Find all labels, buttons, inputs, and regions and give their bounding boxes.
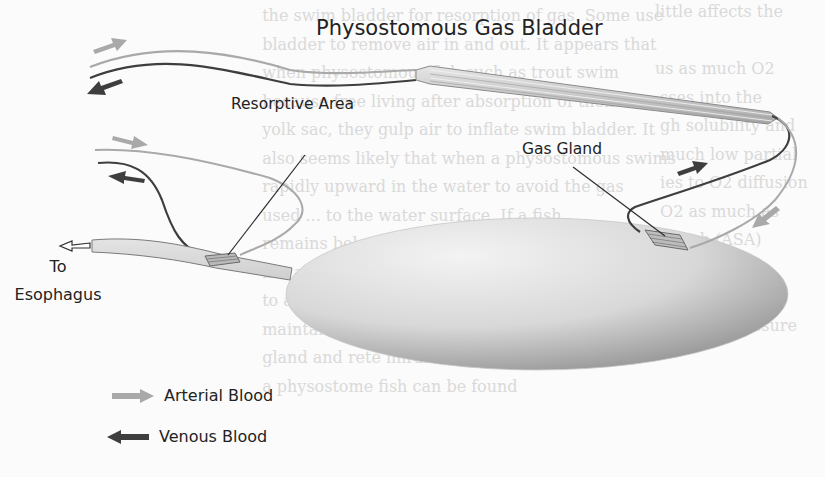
to-esophagus-arrow-icon bbox=[60, 241, 90, 251]
arterial-arrow-icon-mid-left bbox=[112, 136, 148, 149]
to-esophagus-label-line1: To bbox=[10, 253, 106, 281]
venous-vessel-top bbox=[90, 64, 416, 86]
legend-label-arterial: Arterial Blood bbox=[164, 386, 273, 405]
venous-arrow-icon-top-left bbox=[87, 79, 123, 95]
figure-title: Physostomous Gas Bladder bbox=[316, 16, 603, 40]
rete-mirabile-bundle bbox=[416, 66, 778, 124]
legend-label-venous: Venous Blood bbox=[159, 427, 267, 446]
legend-item-arterial: Arterial Blood bbox=[112, 386, 273, 405]
legend-item-venous: Venous Blood bbox=[107, 427, 267, 446]
swim-bladder-body bbox=[286, 218, 788, 370]
venous-arrow-icon-right bbox=[677, 161, 708, 176]
to-esophagus-label-line2: Esophagus bbox=[10, 281, 106, 309]
to-esophagus-label: To Esophagus bbox=[10, 253, 106, 309]
arrow-left-icon bbox=[107, 430, 149, 444]
venous-arrow-icon-mid-left bbox=[108, 171, 145, 184]
arterial-vessel-top bbox=[90, 51, 416, 73]
diagram-page: little affects the us as much O2 sses in… bbox=[0, 0, 825, 477]
arrow-right-icon bbox=[112, 389, 154, 403]
arterial-arrow-icon-top-left bbox=[93, 38, 127, 54]
gas-bladder-diagram bbox=[0, 0, 825, 477]
resorptive-area-label: Resorptive Area bbox=[231, 95, 354, 113]
gas-gland-label: Gas Gland bbox=[522, 140, 602, 158]
